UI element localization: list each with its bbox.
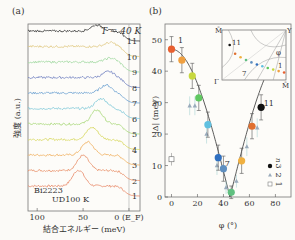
data-point-circle (189, 72, 196, 79)
data-point-circle (215, 154, 222, 161)
panel-a-x-axis-label: 結合エネルギー (meV) (43, 224, 126, 234)
inset-point (228, 44, 231, 47)
inset-point (272, 68, 275, 71)
inset-label-y: Y (286, 27, 292, 35)
inset-point-label-7: 7 (242, 70, 246, 78)
inset-point (261, 65, 264, 68)
curve-label-7: 7 (132, 99, 137, 108)
data-point-circle (228, 189, 235, 196)
inset-point (250, 61, 253, 64)
inset-label-m-right: M̄ (282, 81, 289, 90)
inset-point-label-1: 1 (278, 62, 282, 70)
data-point-circle (238, 157, 245, 164)
data-point-circle (178, 57, 185, 64)
y-tick-label: 0 (157, 193, 162, 202)
y-tick-label: 50 (152, 36, 162, 45)
inset-point (256, 63, 259, 66)
inset-point (283, 71, 286, 74)
inset-angle-label: φ (276, 49, 281, 57)
panel-a-label: (a) (12, 6, 24, 16)
curve-label-11: 11 (127, 37, 137, 46)
panel-b-y-axis-label: |Δ| (meV) (151, 96, 160, 134)
point-annotation: 1 (178, 36, 183, 45)
inset-point (266, 67, 269, 70)
y-tick-label: 40 (152, 67, 162, 76)
curve-label-6: 6 (132, 115, 137, 124)
legend-marker-square (268, 182, 272, 186)
inset-point (245, 59, 248, 62)
panel-b-x-axis-label: φ (°) (219, 221, 237, 230)
x-tick-label: 100 (30, 213, 45, 222)
x-tick-label: 60 (244, 199, 254, 208)
x-tick-label: 50 (78, 213, 88, 222)
curve-label-4: 4 (132, 146, 137, 155)
inset-point (239, 56, 242, 59)
curve-label-5: 5 (132, 130, 137, 139)
data-point-circle (168, 46, 175, 53)
sample-label: Bi2223 (34, 186, 63, 195)
legend-marker-circle (268, 164, 272, 168)
inset-point (277, 70, 280, 73)
temperature-annotation: T = 40 K (101, 26, 143, 36)
data-point-circle (204, 121, 211, 128)
x-tick-label: 20 (192, 199, 202, 208)
x-tick-label: 40 (218, 199, 228, 208)
curve-label-3: 3 (132, 161, 137, 170)
data-point-square (169, 157, 174, 162)
legend-title: n (274, 158, 282, 163)
point-annotation: 7 (225, 159, 230, 168)
inset-point-label-11: 11 (232, 39, 241, 47)
x-tick-label: 80 (270, 199, 280, 208)
y-tick-label: 10 (152, 162, 162, 171)
sample-doping-label: UD100 K (52, 195, 90, 204)
panel-a-frame (28, 24, 140, 211)
legend-label: 1 (274, 181, 283, 186)
point-annotation: 11 (264, 99, 274, 108)
legend-label: 2 (274, 172, 283, 177)
inset-point (234, 52, 237, 55)
figure: (a) 1234567891011 T = 40 K Bi2223 UD100 … (0, 0, 295, 240)
x-tick-label: 0 (169, 199, 174, 208)
data-point-circle (248, 123, 255, 130)
data-point-circle (195, 94, 202, 101)
legend-label: 3 (274, 163, 283, 168)
curve-label-1: 1 (132, 192, 137, 201)
inset-label-m-top: M̄ (215, 26, 222, 35)
panel-b-label: (b) (149, 6, 162, 16)
inset-label-gamma: Γ (214, 78, 219, 86)
curve-label-10: 10 (127, 53, 137, 62)
panel-a-y-axis-label: 強度 (a.u.) (12, 98, 22, 138)
curve-label-2: 2 (132, 177, 137, 186)
x-tick-label: 0 (E_F) (114, 213, 143, 222)
curve-label-8: 8 (132, 84, 137, 93)
curve-label-9: 9 (132, 68, 137, 77)
